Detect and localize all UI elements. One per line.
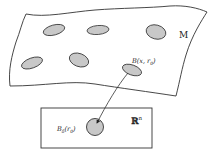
ball-manifold-label: B(x, r0): [131, 57, 156, 66]
patch-ellipse: [87, 25, 110, 36]
manifold-surface: [9, 6, 207, 96]
euclidean-label: ℝn: [131, 115, 142, 126]
patch-ellipse: [42, 22, 66, 37]
patch-ellipse: [145, 23, 168, 42]
ball-euclid-label: Bδ(r0): [56, 125, 76, 134]
patch-ellipse: [20, 55, 44, 72]
ball-euclid-circle: [87, 119, 104, 136]
chart-map-arrow: [97, 73, 128, 123]
patch-ellipse: [67, 50, 90, 69]
manifold-label: M: [179, 30, 188, 40]
manifold-chart-diagram: M B(x, r0) ℝn Bδ(r0): [0, 0, 211, 155]
